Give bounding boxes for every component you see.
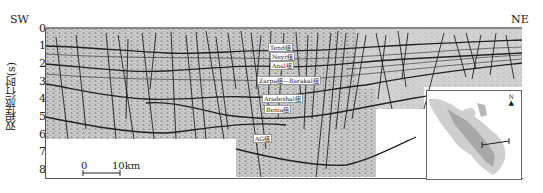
y-axis-label: 双程旅行时(s): [6, 62, 20, 131]
formation-label: Anal组: [270, 61, 294, 70]
direction-sw: SW: [10, 13, 29, 26]
direction-ne: NE: [511, 13, 529, 26]
scale-bar: [82, 170, 122, 176]
formation-label: Neyr组: [270, 52, 295, 61]
formation-label: Aradeshal组: [262, 94, 303, 103]
inset-map: N ▲: [426, 90, 522, 180]
formation-label: Zarpa组—Barakal组: [257, 76, 321, 85]
basin-map: [427, 91, 521, 179]
formation-label: Tend组: [268, 43, 293, 52]
formation-label: Benia组: [264, 105, 291, 114]
formation-label: AG组: [253, 134, 272, 143]
